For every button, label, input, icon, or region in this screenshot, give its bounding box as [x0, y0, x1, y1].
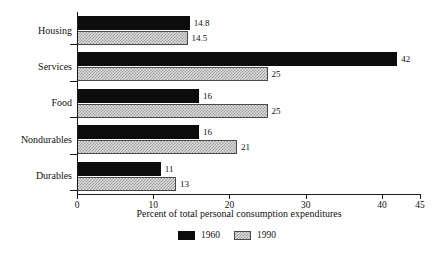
bar-durables-1990: [77, 177, 176, 191]
bar-value-label: 14.8: [194, 19, 210, 28]
y-axis-tick: [70, 154, 78, 155]
legend-swatch-1960: [178, 231, 195, 240]
bar-food-1990: [77, 104, 268, 118]
bar-value-label: 25: [272, 70, 281, 79]
y-axis-line: [77, 12, 78, 194]
x-axis-tick: [77, 194, 78, 199]
bar-nondurables-1960: [77, 125, 199, 139]
category-label-food: Food: [0, 97, 72, 108]
x-axis-tick: [229, 194, 230, 199]
y-axis-tick: [70, 190, 78, 191]
category-label-housing: Housing: [0, 25, 72, 36]
legend-item-1990: 1990: [234, 230, 276, 240]
bar-housing-1990: [77, 31, 188, 45]
x-axis-title: Percent of total personal consumption ex…: [0, 208, 442, 219]
legend-label-1990: 1990: [257, 230, 276, 240]
category-label-nondurables: Nondurables: [0, 134, 72, 145]
y-axis-tick: [70, 81, 78, 82]
bar-durables-1960: [77, 162, 161, 176]
x-axis-line: [77, 194, 421, 195]
legend-item-1960: 1960: [178, 230, 220, 240]
y-axis-tick: [70, 44, 78, 45]
legend-label-1960: 1960: [201, 230, 220, 240]
bar-value-label: 13: [180, 179, 189, 188]
x-axis-tick: [306, 194, 307, 199]
bar-value-label: 11: [165, 164, 174, 173]
bar-value-label: 21: [241, 143, 250, 152]
bar-value-label: 14.5: [192, 34, 208, 43]
bar-chart: 14.814.54225162516211113 HousingServices…: [0, 0, 442, 258]
legend-swatch-1990: [234, 231, 251, 240]
bar-housing-1960: [77, 16, 190, 30]
y-axis-tick: [70, 117, 78, 118]
x-axis-tick: [382, 194, 383, 199]
bar-value-label: 16: [203, 128, 212, 137]
bar-value-label: 25: [272, 106, 281, 115]
x-axis-tick: [153, 194, 154, 199]
bar-value-label: 16: [203, 91, 212, 100]
category-label-durables: Durables: [0, 170, 72, 181]
bar-value-label: 42: [401, 55, 410, 64]
bar-services-1960: [77, 52, 397, 66]
bar-nondurables-1990: [77, 140, 237, 154]
bar-food-1960: [77, 89, 199, 103]
x-axis-tick: [420, 194, 421, 199]
category-label-services: Services: [0, 61, 72, 72]
bar-services-1990: [77, 67, 268, 81]
chart-legend: 19601990: [0, 230, 442, 240]
plot-area: 14.814.54225162516211113: [77, 12, 420, 194]
